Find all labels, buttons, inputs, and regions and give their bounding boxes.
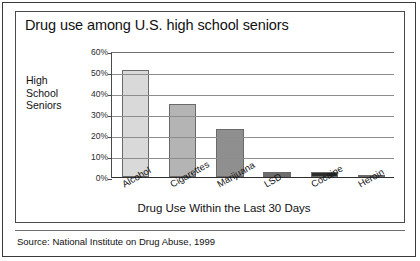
gridline [112,158,394,159]
bar-alcohol [122,70,149,177]
x-axis-baseline [112,177,394,178]
source-divider [15,230,405,231]
chart-panel: Drug use among U.S. high school seniors … [15,11,405,223]
y-axis-tick [108,95,112,96]
y-axis-tick [108,74,112,75]
y-axis-tick [108,158,112,159]
gridline [112,95,394,96]
y-axis-tick [108,53,112,54]
x-axis-title: Drug Use Within the Last 30 Days [16,202,406,214]
gridline [112,116,394,117]
gridline [112,137,394,138]
y-axis-tick-label: 60% [91,47,108,57]
gridline [112,74,394,75]
source-note: Source: National Institute on Drug Abuse… [17,236,215,247]
y-axis-title-line-2: School [26,87,78,100]
y-axis-tick-label: 50% [91,68,108,78]
figure-outer-frame: Drug use among U.S. high school seniors … [2,2,416,257]
x-axis-category-labels: AlcoholCigarettesMarijuanaLSDCocaineHero… [111,180,394,220]
y-axis-tick-labels: 0%10%20%30%40%50%60% [78,52,108,178]
plot-wrapper: High School Seniors 0%10%20%30%40%50%60%… [16,12,406,224]
plot-area [111,52,394,178]
y-axis-title-line-1: High [26,74,78,87]
y-axis-title: High School Seniors [26,74,78,112]
y-axis-tick [108,137,112,138]
y-axis-tick-label: 30% [91,110,108,120]
y-axis-tick-label: 10% [91,152,108,162]
y-axis-tick [108,116,112,117]
y-axis-tick-label: 20% [91,131,108,141]
y-axis-tick-label: 0% [96,173,108,183]
y-axis-tick-label: 40% [91,89,108,99]
y-axis-title-line-3: Seniors [26,99,78,112]
